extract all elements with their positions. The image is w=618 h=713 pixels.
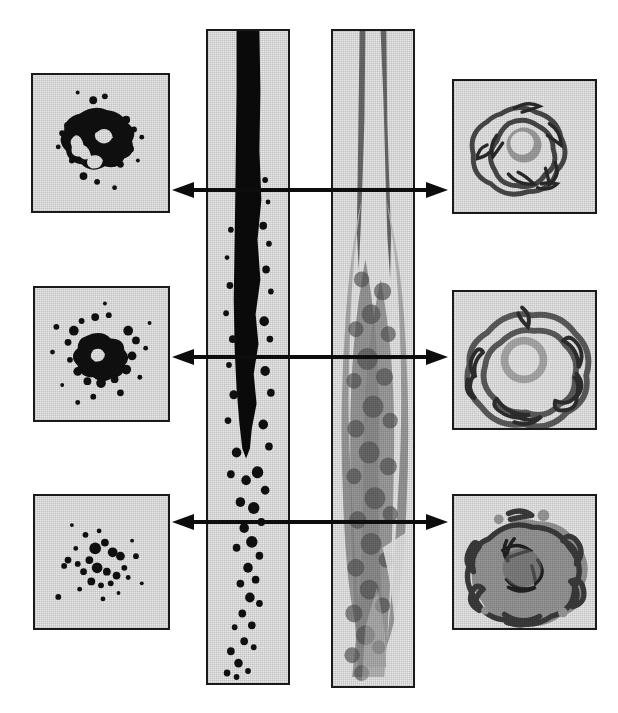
- figure-canvas: [0, 0, 618, 713]
- right-cross-section-panel-2: [452, 290, 597, 430]
- vorticity-side-view-image: [333, 31, 413, 686]
- arrow-head-right-3: [426, 514, 448, 530]
- center-scalar-side-view-panel: [206, 29, 290, 685]
- vorticity-cross-section-image-1: [454, 81, 595, 212]
- arrow-head-right-1: [426, 182, 448, 198]
- left-cross-section-panel-1: [31, 73, 170, 213]
- arrow-head-left-3: [172, 514, 194, 530]
- left-cross-section-panel-3: [33, 494, 170, 630]
- scalar-cross-section-image-1: [33, 75, 168, 211]
- center-vorticity-side-view-panel: [331, 29, 415, 688]
- scalar-cross-section-image-3: [35, 496, 168, 628]
- arrow-head-left-1: [172, 182, 194, 198]
- arrow-head-left-2: [172, 349, 194, 365]
- vorticity-cross-section-image-2: [454, 292, 595, 428]
- vorticity-cross-section-image-3: [454, 496, 595, 628]
- right-cross-section-panel-1: [452, 79, 597, 214]
- scalar-cross-section-image-2: [35, 288, 168, 420]
- left-cross-section-panel-2: [33, 286, 170, 422]
- scalar-side-view-image: [208, 31, 288, 683]
- right-cross-section-panel-3: [452, 494, 597, 630]
- arrow-head-right-2: [426, 349, 448, 365]
